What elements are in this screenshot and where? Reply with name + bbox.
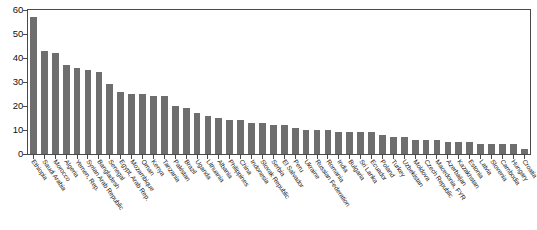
x-axis-label-cell: Turkey	[388, 159, 399, 230]
y-axis-tick-label: 30	[13, 77, 23, 87]
bar-cell	[192, 10, 203, 154]
bar-cell	[355, 10, 366, 154]
bar-cell	[268, 10, 279, 154]
bar	[466, 142, 473, 154]
bar	[172, 106, 179, 154]
x-axis-label-cell: Moldova	[410, 159, 421, 230]
x-axis-label-cell: Hungary	[508, 159, 519, 230]
bar-cell	[148, 10, 159, 154]
x-axis-label-cell: China	[235, 159, 246, 230]
x-axis-label-cell: Latvia	[475, 159, 486, 230]
y-axis-tick-label: 40	[13, 53, 23, 63]
bar-cell	[399, 10, 410, 154]
bar-cell	[312, 10, 323, 154]
bar-cell	[279, 10, 290, 154]
y-axis-tick-label: 60	[13, 5, 23, 15]
x-axis-label-cell: Brazil	[181, 159, 192, 230]
x-axis-label-cell: Croatia	[519, 159, 530, 230]
bar-cell	[333, 10, 344, 154]
bar	[215, 118, 222, 154]
x-axis-label-cell: India	[333, 159, 344, 230]
bar	[477, 144, 484, 154]
x-axis-label-cell: Saudi Arabia	[39, 159, 50, 230]
bar	[521, 149, 528, 154]
x-axis-label-cell: Bulgaria	[344, 159, 355, 230]
x-axis-label-cell: Sri Lanka	[355, 159, 366, 230]
bar-cell	[257, 10, 268, 154]
bar	[270, 125, 277, 154]
bar-cell	[61, 10, 72, 154]
bar	[30, 17, 37, 154]
bar	[314, 130, 321, 154]
bar	[205, 116, 212, 154]
bar-cell	[224, 10, 235, 154]
bar	[237, 120, 244, 154]
bar	[510, 144, 517, 154]
bar-cell	[83, 10, 94, 154]
bar-cell	[442, 10, 453, 154]
x-axis-label-cell: Albania	[213, 159, 224, 230]
bar-cell	[366, 10, 377, 154]
bar	[303, 130, 310, 154]
bar	[423, 140, 430, 154]
bar	[488, 144, 495, 154]
bar-cell	[508, 10, 519, 154]
bar	[161, 96, 168, 154]
bar-cell	[464, 10, 475, 154]
x-axis-label-cell: Slovenia	[486, 159, 497, 230]
y-axis-tick-label: 50	[13, 29, 23, 39]
x-axis-label-cell: Egypt, Arab Rep.	[115, 159, 126, 230]
bar	[85, 70, 92, 154]
x-axis-label-cell: Kenya	[148, 159, 159, 230]
bar-cell	[421, 10, 432, 154]
x-axis-label: Croatia	[521, 159, 537, 180]
bar	[41, 51, 48, 154]
x-axis-label-cell: Bangladesh	[93, 159, 104, 230]
bar	[139, 94, 146, 154]
bar-cell	[115, 10, 126, 154]
bar	[248, 123, 255, 154]
bar-cell	[28, 10, 39, 154]
x-axis-label-cell: Poland	[377, 159, 388, 230]
x-axis-label-cell: Morocco	[50, 159, 61, 230]
bar-cell	[50, 10, 61, 154]
bar	[292, 128, 299, 154]
y-axis-tick-label: 10	[13, 125, 23, 135]
x-axis-label-cell: Yemen, Rep.	[72, 159, 83, 230]
bar-cell	[519, 10, 530, 154]
x-axis-label-cell: Russian Federation	[312, 159, 323, 230]
x-axis-labels: EthiopiaSaudi ArabiaMoroccoAlgeriaYemen,…	[28, 159, 530, 230]
bar	[390, 137, 397, 154]
bar	[128, 94, 135, 154]
bar-cell	[93, 10, 104, 154]
x-axis-label-cell: Slovak Republic	[257, 159, 268, 230]
chart-screenshot: 0102030405060 EthiopiaSaudi ArabiaMorocc…	[0, 0, 537, 230]
x-axis-label-cell: Oman	[137, 159, 148, 230]
bar-cell	[213, 10, 224, 154]
bar	[335, 132, 342, 154]
bar	[150, 96, 157, 154]
bar	[52, 53, 59, 154]
x-axis-label-cell: Indonesia	[246, 159, 257, 230]
x-axis-label-cell: Tanzania	[159, 159, 170, 230]
bar-cell	[322, 10, 333, 154]
x-axis-label-cell: Cambodia	[497, 159, 508, 230]
bar-cell	[72, 10, 83, 154]
x-axis-label-cell: Senegal	[104, 159, 115, 230]
bar	[194, 113, 201, 154]
x-axis-label-cell: Mozambique	[126, 159, 137, 230]
x-axis-label-cell: Uganda	[192, 159, 203, 230]
bar	[226, 120, 233, 154]
x-axis-label-cell: Philippines	[224, 159, 235, 230]
bar-cell	[203, 10, 214, 154]
bar-cell	[126, 10, 137, 154]
x-axis-label-cell: Romania	[322, 159, 333, 230]
bar	[455, 142, 462, 154]
bar	[117, 92, 124, 154]
x-axis-label-cell: El Salvador	[279, 159, 290, 230]
bar-cell	[344, 10, 355, 154]
bar	[445, 142, 452, 154]
x-axis-label-cell: Lithuania	[203, 159, 214, 230]
bar-cell	[377, 10, 388, 154]
x-axis-label-cell: Azerbaijan	[442, 159, 453, 230]
